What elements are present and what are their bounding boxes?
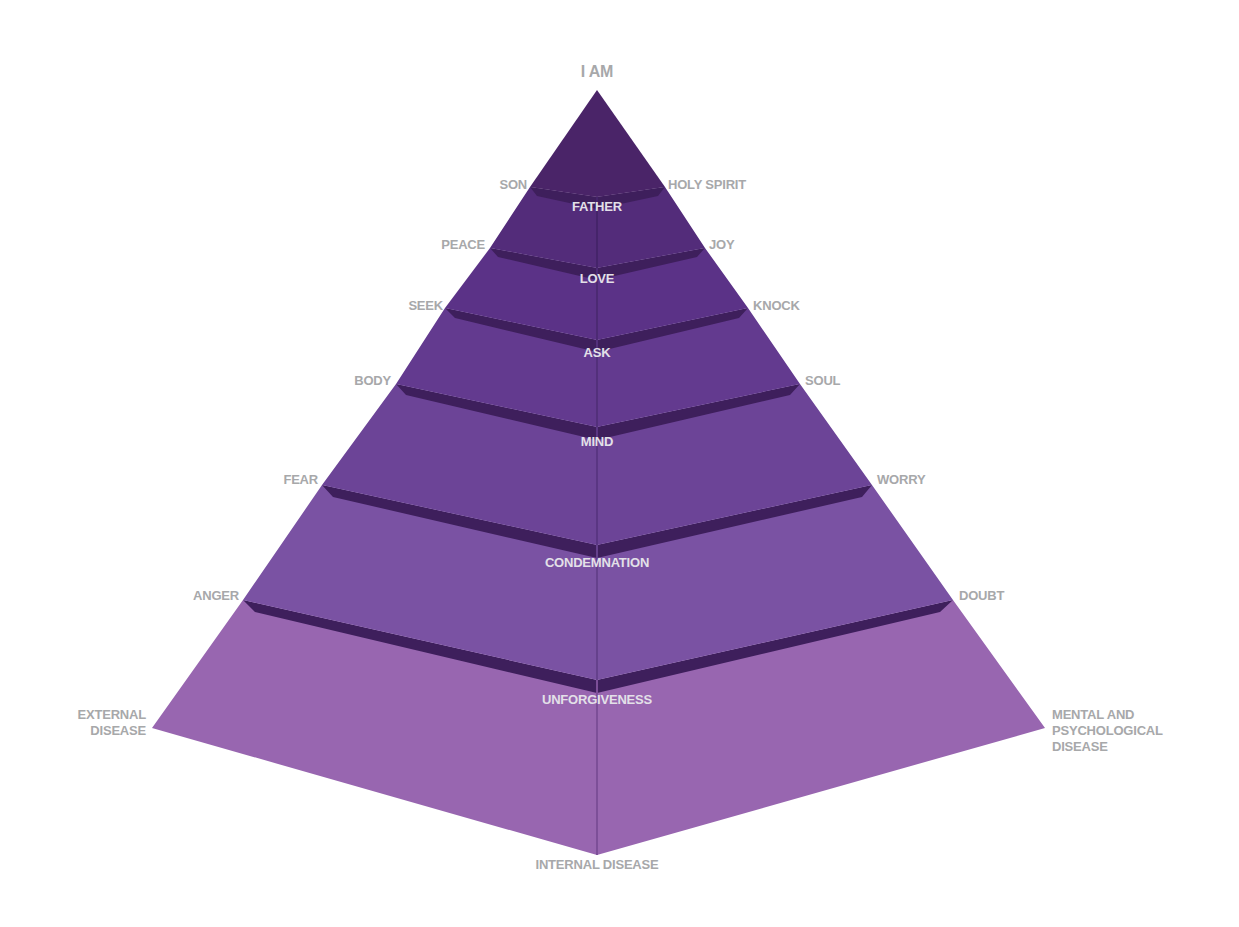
pyramid-graphic [0,0,1239,927]
center-label-condemnation: CONDEMNATION [545,555,649,571]
right-label-doubt: DOUBT [959,588,1004,604]
right-label-knock: KNOCK [753,298,800,314]
left-label-son: SON [499,177,527,193]
left-label-line: EXTERNAL [78,707,146,723]
left-label-fear: FEAR [283,472,318,488]
center-label-father: FATHER [572,199,622,215]
left-label-line: DISEASE [78,723,146,739]
center-label-mind: MIND [581,434,613,450]
right-label-holy-spirit: HOLY SPIRIT [668,177,746,193]
center-label-ask: ASK [584,345,611,361]
layer-1-apex [530,90,665,197]
pyramid-diagram: I AM INTERNAL DISEASE SON HOLY SPIRIT FA… [0,0,1239,927]
right-label-soul: SOUL [805,373,840,389]
right-label-joy: JOY [709,237,734,253]
left-label-anger: ANGER [193,588,239,604]
apex-label: I AM [581,64,613,80]
left-label-body: BODY [354,373,391,389]
base-label: INTERNAL DISEASE [536,857,659,873]
right-label-worry: WORRY [877,472,925,488]
right-label-line: DISEASE [1052,739,1163,755]
right-label-line: MENTAL AND [1052,707,1163,723]
center-label-unforgiveness: UNFORGIVENESS [542,692,652,708]
left-label-seek: SEEK [408,298,443,314]
left-label-peace: PEACE [441,237,485,253]
right-label-line: PSYCHOLOGICAL [1052,723,1163,739]
left-label-external-disease: EXTERNAL DISEASE [78,707,146,739]
center-label-love: LOVE [580,271,615,287]
right-label-mental-disease: MENTAL AND PSYCHOLOGICAL DISEASE [1052,707,1163,755]
